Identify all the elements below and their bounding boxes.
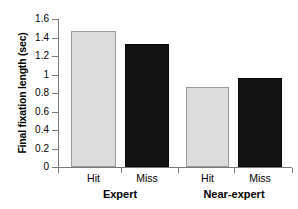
y-tick-label-4: 0.8 (18, 87, 49, 98)
y-tick-label-8: 1.6 (18, 13, 49, 24)
y-tick-label-5: 1 (18, 69, 49, 80)
y-tick-label-3: 0.6 (18, 106, 49, 117)
bar-expert-miss (125, 44, 169, 167)
bar-near-expert-miss (238, 78, 282, 167)
x-axis-group-label-near-expert: Near-expert (184, 188, 284, 200)
x-axis-line (58, 167, 292, 168)
x-axis-category-label-3: Miss (230, 172, 290, 184)
x-tick-0 (58, 168, 59, 173)
x-axis-category-label-1: Miss (117, 172, 177, 184)
bar-near-expert-hit (186, 87, 229, 167)
x-axis-category-label-2: Hit (178, 172, 238, 184)
y-tick-label-6: 1.2 (18, 50, 49, 61)
y-tick-label-2: 0.4 (18, 124, 49, 135)
y-tick-label-1: 0.2 (18, 143, 49, 154)
plot-area (58, 19, 292, 167)
bar-expert-hit (71, 31, 116, 167)
y-tick-label-0: 0 (18, 161, 49, 172)
x-axis-group-label-expert: Expert (70, 188, 170, 200)
x-tick-4 (292, 168, 293, 173)
bar-chart-figure: Final fixation length (sec) 00.20.40.60.… (0, 0, 298, 209)
y-tick-label-7: 1.4 (18, 32, 49, 43)
x-axis-category-label-0: Hit (64, 172, 124, 184)
